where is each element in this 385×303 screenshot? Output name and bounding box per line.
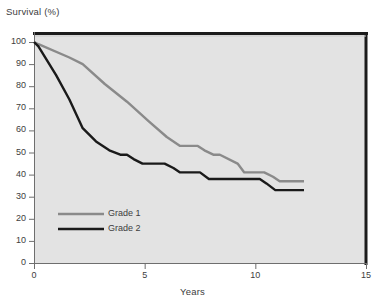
y-tick-label: 10 bbox=[0, 235, 26, 245]
x-tick-label: 5 bbox=[133, 270, 157, 280]
y-tick-label: 40 bbox=[0, 169, 26, 179]
x-tick-label: 10 bbox=[243, 270, 267, 280]
legend-entry-label: Grade 2 bbox=[108, 223, 141, 233]
y-tick-label: 20 bbox=[0, 213, 26, 223]
x-tick-label: 0 bbox=[22, 270, 46, 280]
y-tick-label: 30 bbox=[0, 191, 26, 201]
y-tick-label: 80 bbox=[0, 80, 26, 90]
y-tick-label: 100 bbox=[0, 36, 26, 46]
y-tick-label: 70 bbox=[0, 102, 26, 112]
y-axis-ticks bbox=[29, 43, 34, 264]
y-tick-label: 90 bbox=[0, 58, 26, 68]
legend-entry-label: Grade 1 bbox=[108, 208, 141, 218]
x-tick-label: 15 bbox=[354, 270, 378, 280]
y-tick-label: 60 bbox=[0, 124, 26, 134]
x-axis-title: Years bbox=[0, 286, 385, 297]
survival-chart: Survival (%) 0102030405060708090100 0510… bbox=[0, 0, 385, 303]
plot-canvas bbox=[0, 0, 385, 303]
y-tick-label: 50 bbox=[0, 147, 26, 157]
y-tick-label: 0 bbox=[0, 257, 26, 267]
